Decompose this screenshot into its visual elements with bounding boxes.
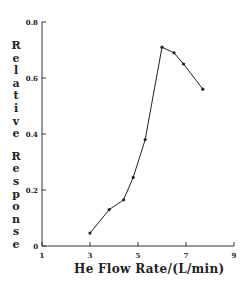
data-point bbox=[144, 138, 147, 141]
data-point bbox=[201, 88, 204, 91]
y-label-char: e bbox=[9, 239, 23, 252]
y-label-char: e bbox=[9, 128, 23, 141]
data-point bbox=[122, 198, 125, 201]
data-series bbox=[88, 46, 204, 235]
y-label-char: s bbox=[9, 176, 23, 189]
y-label-char: o bbox=[9, 201, 23, 214]
x-tick-label: 1 bbox=[40, 251, 45, 260]
x-tick-label: 9 bbox=[232, 251, 237, 260]
x-tick-label: 3 bbox=[88, 251, 93, 260]
data-point bbox=[132, 176, 135, 179]
y-label-char: R bbox=[9, 40, 23, 53]
y-label-char: l bbox=[9, 65, 23, 78]
data-point bbox=[182, 62, 185, 65]
y-label-char: i bbox=[9, 103, 23, 116]
x-axis: 13579 bbox=[40, 242, 237, 260]
y-tick-label: 0.4 bbox=[26, 130, 38, 139]
data-point bbox=[88, 232, 91, 235]
line-chart: 00.20.40.60.8 13579 bbox=[0, 0, 250, 293]
y-tick-label: 0.6 bbox=[26, 74, 38, 83]
y-axis: 00.20.40.60.8 bbox=[26, 18, 46, 251]
y-tick-label: 0.2 bbox=[26, 186, 38, 195]
y-tick-label: 0 bbox=[33, 242, 38, 251]
data-point bbox=[172, 51, 175, 54]
x-tick-label: 5 bbox=[136, 251, 141, 260]
data-point bbox=[108, 208, 111, 211]
data-point bbox=[160, 46, 163, 49]
x-tick-label: 7 bbox=[184, 251, 189, 260]
y-axis-label: RelativeResponse bbox=[9, 40, 23, 252]
x-axis-label: He Flow Rate/(L/min) bbox=[74, 262, 224, 276]
y-tick-label: 0.8 bbox=[26, 18, 38, 27]
